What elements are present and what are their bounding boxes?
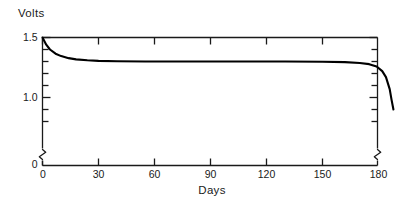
x-tick-label: 30 bbox=[93, 168, 105, 180]
y-tick-label: 1.0 bbox=[23, 91, 38, 103]
voltage-vs-days-line-chart: 306090120150180 1.51.0 00 Volts Days bbox=[0, 0, 398, 202]
x-axis-title: Days bbox=[198, 184, 225, 196]
y-origin-label: 0 bbox=[32, 158, 38, 170]
x-tick-label: 120 bbox=[258, 168, 276, 180]
chart-container: 306090120150180 1.51.0 00 Volts Days bbox=[0, 0, 398, 202]
x-tick-label: 60 bbox=[149, 168, 161, 180]
x-tick-label: 180 bbox=[370, 168, 388, 180]
x-tick-label: 150 bbox=[314, 168, 332, 180]
y-tick-label: 1.5 bbox=[23, 31, 38, 43]
x-tick-label: 90 bbox=[205, 168, 217, 180]
chart-background bbox=[0, 0, 398, 202]
y-axis-title: Volts bbox=[18, 7, 44, 19]
x-origin-label: 0 bbox=[40, 168, 46, 180]
